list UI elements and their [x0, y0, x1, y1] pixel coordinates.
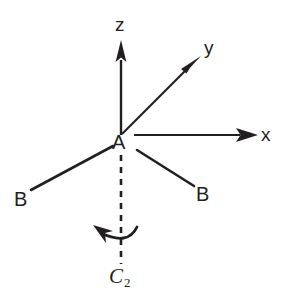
axis-label-z: z: [115, 15, 125, 34]
molecular-diagram-figure: z y x A B B C2: [0, 0, 281, 307]
bond-a-b-right: [137, 150, 194, 186]
c2-rotation-arrowhead: [93, 225, 113, 243]
y-axis-line: [122, 64, 192, 134]
atom-label-a: A: [112, 133, 125, 152]
axis-label-x: x: [261, 125, 271, 144]
atom-label-b-left: B: [14, 190, 27, 209]
y-axis-arrowhead: [181, 56, 201, 74]
z-axis-arrowhead: [116, 40, 127, 62]
bond-a-b-left: [31, 146, 113, 190]
diagram-canvas: [0, 0, 281, 307]
axis-label-y: y: [204, 38, 214, 57]
c2-axis-label-subscript: 2: [124, 275, 131, 290]
atom-label-b-right: B: [196, 185, 209, 204]
c2-axis-label-letter: C: [109, 264, 123, 288]
c2-axis-label: C2: [109, 267, 130, 288]
